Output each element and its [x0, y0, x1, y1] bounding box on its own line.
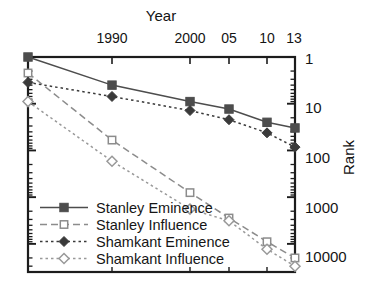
legend-item-shamkant-eminence: Shamkant Eminence [38, 233, 223, 250]
legend-label-stanley-eminence: Stanley Eminence [96, 200, 213, 216]
legend-item-stanley-influence: Stanley Influence [38, 216, 223, 233]
legend-item-stanley-eminence: Stanley Eminence [38, 199, 223, 216]
legend-swatch-shamkant-influence [38, 250, 90, 267]
legend-label-stanley-influence: Stanley Influence [96, 217, 207, 233]
legend-item-shamkant-influence: Shamkant Influence [38, 250, 223, 267]
rank-vs-year-chart: Year 1990 2000 05 10 13 1 10 100 1000 10… [0, 0, 391, 295]
legend-swatch-shamkant-eminence [38, 233, 90, 250]
legend-swatch-stanley-eminence [38, 199, 90, 216]
legend-label-shamkant-influence: Shamkant Influence [96, 251, 224, 267]
legend-swatch-stanley-influence [38, 216, 90, 233]
legend-label-shamkant-eminence: Shamkant Eminence [96, 234, 230, 250]
legend: Stanley Eminence Stanley Influence Shamk… [38, 199, 223, 267]
